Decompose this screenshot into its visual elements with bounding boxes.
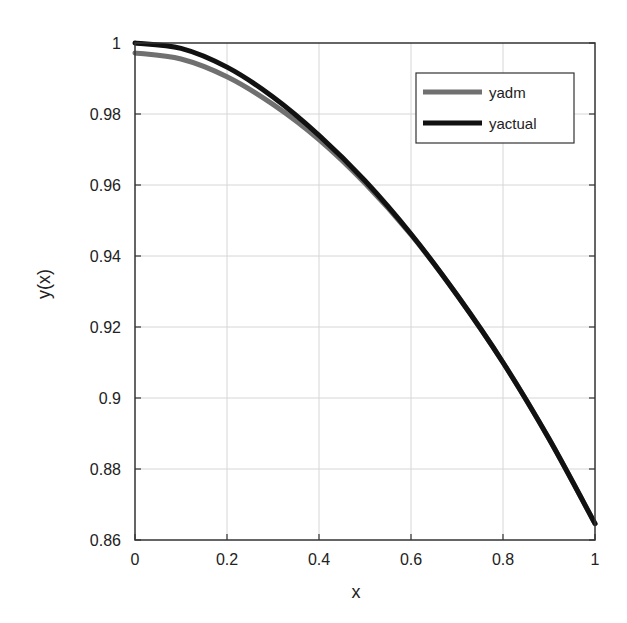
y-tick-label: 1 — [112, 35, 121, 52]
x-axis-label: x — [352, 582, 361, 602]
x-tick-label: 0 — [131, 551, 140, 568]
y-tick-label: 0.9 — [99, 390, 121, 407]
legend-label-yadm: yadm — [489, 84, 526, 101]
legend-label-yactual: yactual — [489, 115, 537, 132]
y-tick-label: 0.96 — [90, 177, 121, 194]
y-tick-label: 0.98 — [90, 106, 121, 123]
legend: yadm yactual — [416, 73, 574, 143]
y-tick-label: 0.92 — [90, 319, 121, 336]
x-tick-label: 0.2 — [216, 551, 238, 568]
y-tick-label: 0.86 — [90, 532, 121, 549]
line-chart: 00.20.40.60.810.860.880.90.920.940.960.9… — [0, 0, 627, 623]
x-tick-label: 0.6 — [400, 551, 422, 568]
y-tick-label: 0.94 — [90, 248, 121, 265]
x-tick-label: 1 — [591, 551, 600, 568]
x-tick-label: 0.8 — [492, 551, 514, 568]
x-tick-label: 0.4 — [308, 551, 330, 568]
y-tick-label: 0.88 — [90, 461, 121, 478]
y-axis-label: y(x) — [34, 269, 54, 299]
